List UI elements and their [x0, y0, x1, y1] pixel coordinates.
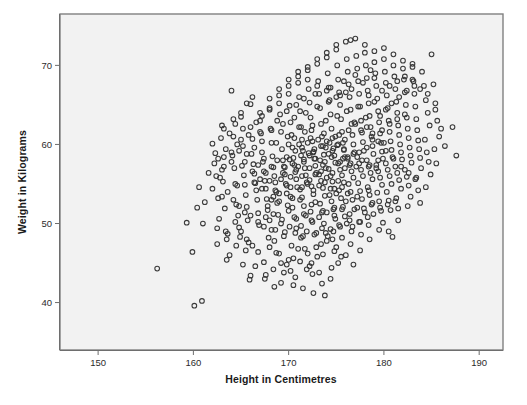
- scatter-plot-chart: 150160170180190 40506070 Height in Centi…: [0, 0, 527, 405]
- y-tick-label: 50: [41, 218, 52, 229]
- plot-canvas: 150160170180190 40506070 Height in Centi…: [0, 0, 527, 405]
- y-tick-label: 60: [41, 139, 52, 150]
- y-tick-label: 40: [41, 297, 52, 308]
- x-axis: 150160170180190: [60, 351, 503, 369]
- x-tick-label: 150: [90, 357, 106, 368]
- y-axis-ticks: 40506070: [41, 60, 59, 308]
- x-tick-label: 160: [185, 357, 201, 368]
- x-axis-title: Height in Centimetres: [225, 373, 337, 385]
- x-tick-label: 180: [376, 357, 392, 368]
- y-tick-label: 70: [41, 60, 52, 71]
- y-axis-title: Weight in Kilograms: [16, 130, 28, 234]
- x-tick-label: 190: [471, 357, 487, 368]
- x-tick-label: 170: [281, 357, 297, 368]
- x-axis-ticks: 150160170180190: [90, 351, 487, 368]
- y-axis: 40506070: [41, 14, 59, 350]
